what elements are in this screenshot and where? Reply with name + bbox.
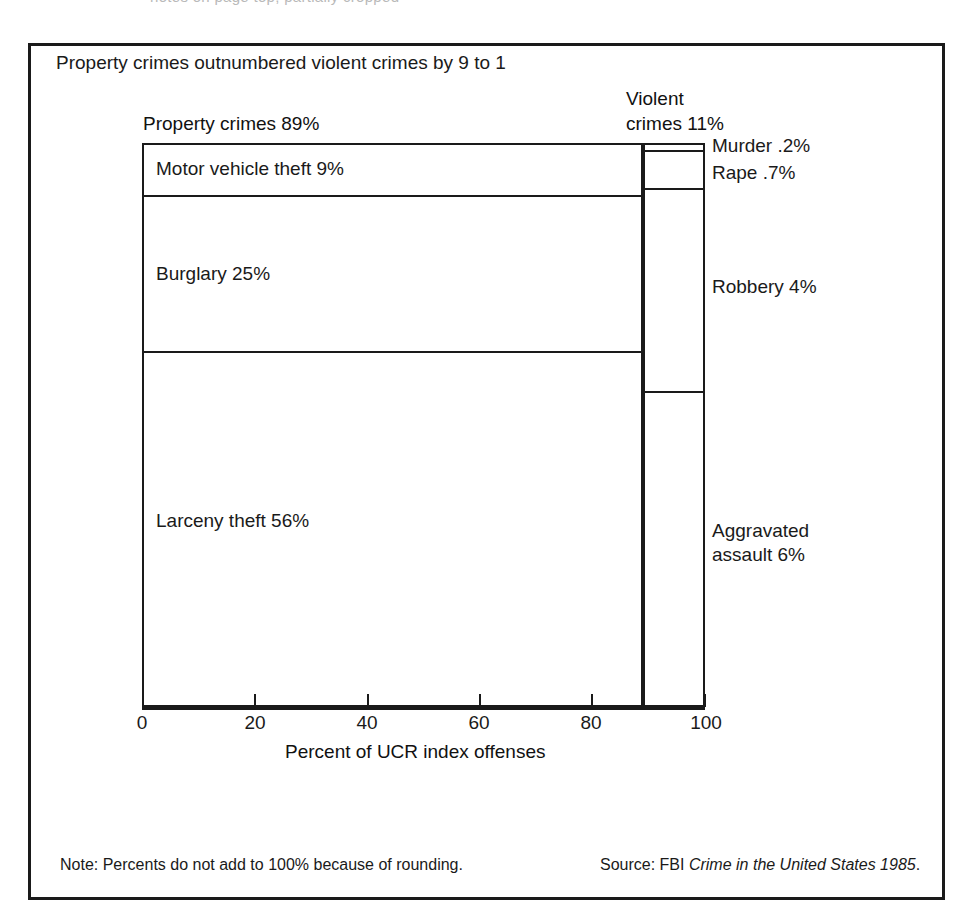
segment-label-larceny-theft: Larceny theft 56% (156, 510, 309, 532)
plot-area: Motor vehicle theft 9% Burglary 25% Larc… (142, 143, 705, 707)
footer-source-title: Crime in the United States 1985 (689, 856, 916, 873)
cropped-page-header-text: notes on page top, partially cropped (150, 0, 399, 5)
segment-robbery (645, 190, 703, 393)
violent-crimes-column (643, 143, 705, 707)
x-tick-label-40: 40 (356, 712, 377, 734)
callout-label-murder: Murder .2% (712, 134, 810, 158)
segment-rape (645, 152, 703, 190)
property-crimes-column: Motor vehicle theft 9% Burglary 25% Larc… (142, 143, 643, 707)
segment-motor-vehicle-theft: Motor vehicle theft 9% (144, 145, 641, 197)
x-tick-80 (591, 694, 593, 707)
footer-source-prefix: Source: FBI (600, 856, 689, 873)
callout-label-aggravated-assault-line2: assault 6% (712, 543, 809, 567)
x-tick-label-80: 80 (580, 712, 601, 734)
x-tick-60 (479, 694, 481, 707)
x-tick-label-20: 20 (244, 712, 265, 734)
callout-label-robbery: Robbery 4% (712, 275, 817, 299)
x-axis-line (142, 707, 705, 710)
x-tick-40 (367, 694, 369, 707)
callout-label-aggravated-assault: Aggravated assault 6% (712, 519, 809, 567)
segment-burglary: Burglary 25% (144, 197, 641, 353)
callout-label-rape: Rape .7% (712, 161, 795, 185)
x-axis-title: Percent of UCR index offenses (285, 741, 546, 763)
cropped-page-header-sliver: notes on page top, partially cropped (0, 0, 975, 14)
property-crimes-group-label: Property crimes 89% (143, 113, 319, 135)
x-tick-0 (142, 694, 144, 707)
segment-label-burglary: Burglary 25% (156, 263, 270, 285)
segment-label-motor-vehicle-theft: Motor vehicle theft 9% (156, 158, 344, 180)
footer-source-suffix: . (916, 856, 920, 873)
x-tick-label-100: 100 (690, 712, 722, 734)
footer-note: Note: Percents do not add to 100% becaus… (60, 856, 463, 874)
footer-source: Source: FBI Crime in the United States 1… (600, 856, 920, 874)
segment-aggravated-assault (645, 393, 703, 704)
violent-crimes-group-label-line1: Violent (626, 86, 724, 111)
chart-title: Property crimes outnumbered violent crim… (56, 52, 506, 74)
callout-label-aggravated-assault-line1: Aggravated (712, 519, 809, 543)
segment-murder (645, 145, 703, 152)
x-tick-20 (254, 694, 256, 707)
x-tick-100 (704, 694, 706, 707)
violent-crimes-group-label: Violent crimes 11% (626, 86, 724, 136)
x-tick-label-0: 0 (137, 712, 148, 734)
violent-crimes-group-label-line2: crimes 11% (626, 111, 724, 136)
x-tick-label-60: 60 (468, 712, 489, 734)
segment-larceny-theft: Larceny theft 56% (144, 353, 641, 704)
